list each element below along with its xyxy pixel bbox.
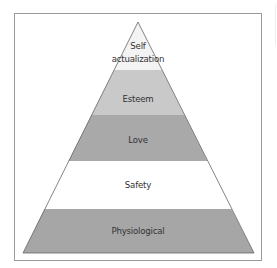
label-love: Love <box>128 135 147 145</box>
label-self: Self <box>130 41 147 51</box>
level-esteem <box>92 70 185 115</box>
label-esteem: Esteem <box>122 94 153 104</box>
pyramid-diagram: Self actualization Esteem Love Safety Ph… <box>0 0 277 268</box>
label-actualization: actualization <box>112 54 165 64</box>
label-safety: Safety <box>125 180 151 190</box>
label-physiological: Physiological <box>111 226 164 236</box>
